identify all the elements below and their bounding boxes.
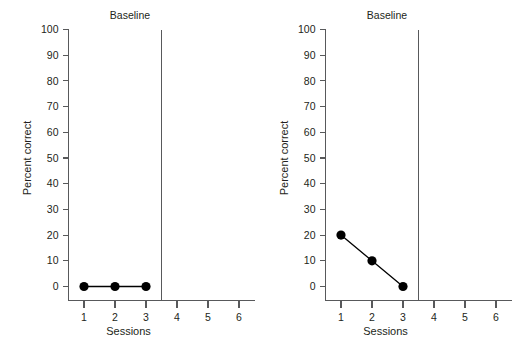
figure-container: Baseline0102030405060708090100123456Sess… [0,0,519,350]
y-tick-label-right-100: 100 [298,23,316,35]
x-tick-label-right-5: 5 [462,311,468,323]
y-tick-label-left-100: 100 [41,23,59,35]
y-axis-label-right: Percent correct [278,121,290,196]
x-axis-label-right: Sessions [363,325,408,337]
y-tick-label-left-80: 80 [47,75,59,87]
y-tick-label-left-20: 20 [47,229,59,241]
x-tick-label-left-1: 1 [81,311,87,323]
x-tick-label-left-3: 3 [143,311,149,323]
x-tick-label-right-1: 1 [338,311,344,323]
y-tick-label-left-40: 40 [47,177,59,189]
y-tick-label-left-90: 90 [47,49,59,61]
y-tick-label-right-40: 40 [304,177,316,189]
data-point-left-0-0[interactable] [79,282,88,291]
y-tick-label-right-90: 90 [304,49,316,61]
y-tick-label-right-0: 0 [310,280,316,292]
panel-title-right: Baseline [367,9,407,21]
x-tick-label-left-6: 6 [236,311,242,323]
y-tick-label-right-10: 10 [304,254,316,266]
data-point-right-0-2[interactable] [398,282,407,291]
data-point-left-0-1[interactable] [110,282,119,291]
x-tick-label-right-6: 6 [493,311,499,323]
y-tick-label-right-50: 50 [304,152,316,164]
x-tick-label-left-5: 5 [205,311,211,323]
x-axis-label-left: Sessions [106,325,151,337]
y-tick-label-left-30: 30 [47,203,59,215]
panel-left: Baseline0102030405060708090100123456Sess… [21,9,255,337]
y-tick-label-left-70: 70 [47,100,59,112]
two-panel-line-chart: Baseline0102030405060708090100123456Sess… [0,0,519,350]
x-tick-label-left-4: 4 [174,311,180,323]
y-tick-label-right-20: 20 [304,229,316,241]
panel-title-left: Baseline [110,9,150,21]
y-tick-label-left-60: 60 [47,126,59,138]
data-point-right-0-0[interactable] [336,231,345,240]
y-tick-label-right-30: 30 [304,203,316,215]
data-point-right-0-1[interactable] [367,256,376,265]
data-point-left-0-2[interactable] [141,282,150,291]
x-tick-label-right-3: 3 [400,311,406,323]
y-tick-label-right-70: 70 [304,100,316,112]
y-tick-label-left-10: 10 [47,254,59,266]
y-tick-label-left-0: 0 [53,280,59,292]
panel-right: Baseline0102030405060708090100123456Sess… [278,9,512,337]
y-tick-label-left-50: 50 [47,152,59,164]
x-tick-label-right-4: 4 [431,311,437,323]
x-tick-label-left-2: 2 [112,311,118,323]
x-tick-label-right-2: 2 [369,311,375,323]
y-axis-label-left: Percent correct [21,121,33,196]
y-tick-label-right-80: 80 [304,75,316,87]
y-tick-label-right-60: 60 [304,126,316,138]
